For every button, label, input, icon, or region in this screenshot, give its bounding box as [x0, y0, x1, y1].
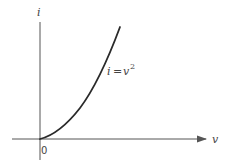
equation-lhs: i — [107, 65, 111, 78]
origin-label: 0 — [41, 145, 47, 156]
parabola-curve — [40, 27, 120, 139]
curve-equation-label: i = v 2 — [107, 62, 135, 78]
equation-rhs-exponent: 2 — [130, 62, 135, 71]
iv-characteristic-diagram: i v 0 i = v 2 — [0, 0, 229, 164]
equation-rhs-base: v — [123, 65, 130, 78]
y-axis-label: i — [37, 6, 41, 19]
x-axis-arrow-icon — [197, 136, 207, 143]
equation-equals: = — [113, 65, 122, 78]
x-axis-label: v — [212, 133, 219, 146]
